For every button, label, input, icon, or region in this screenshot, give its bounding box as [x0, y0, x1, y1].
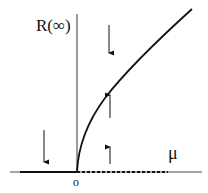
y-axis-label: R(∞)	[36, 16, 71, 36]
x-axis-label: μ	[168, 143, 178, 164]
origin-label: o	[73, 175, 79, 190]
bifurcation-diagram	[0, 0, 208, 193]
